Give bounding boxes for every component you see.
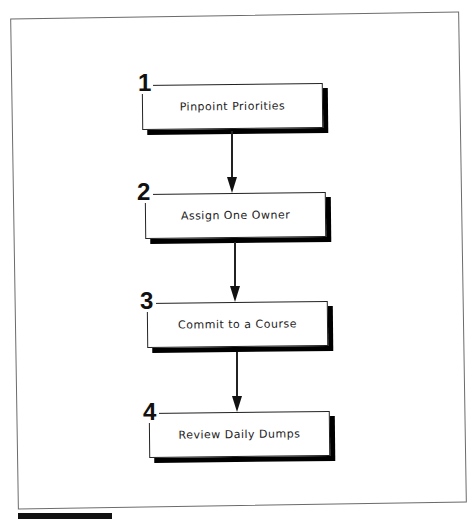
step-box-1: Pinpoint Priorities xyxy=(142,83,323,130)
step-label-3: Commit to a Course xyxy=(178,317,297,331)
connector-line-2-3 xyxy=(234,242,236,290)
step-box-2: Assign One Owner xyxy=(145,192,326,239)
step-number-2: 2 xyxy=(137,182,150,202)
arrow-down-icon xyxy=(230,286,240,302)
step-label-2: Assign One Owner xyxy=(181,208,290,222)
step-number-1: 1 xyxy=(138,73,151,93)
step-label-4: Review Daily Dumps xyxy=(178,427,300,441)
footer-bar xyxy=(18,513,112,519)
step-box-4: Review Daily Dumps xyxy=(149,411,330,458)
connector-line-3-4 xyxy=(236,352,238,400)
step-number-4: 4 xyxy=(143,402,156,422)
step-number-3: 3 xyxy=(140,291,153,311)
arrow-down-icon xyxy=(227,177,237,193)
step-box-3: Commit to a Course xyxy=(147,301,328,348)
connector-line-1-2 xyxy=(231,131,233,181)
step-label-1: Pinpoint Priorities xyxy=(180,99,286,113)
arrow-down-icon xyxy=(232,396,242,412)
